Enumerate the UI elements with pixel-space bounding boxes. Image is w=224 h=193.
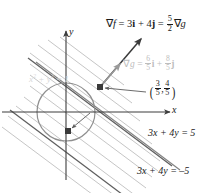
line-lower-label: 3x + 4y = –5 — [137, 166, 189, 176]
grad-g-fraction-2: 85 — [165, 55, 171, 72]
point-y-den: 5 — [164, 89, 170, 97]
grad-g-label: ∇g = 65i + 85j — [123, 55, 174, 72]
point-close-paren: ) — [171, 84, 175, 100]
grad-g-eq: = — [135, 59, 145, 69]
tangency-point-label: (35,45) — [149, 80, 176, 99]
grad-f-g: g — [181, 18, 186, 29]
grad-f-plus: + 4 — [135, 18, 151, 29]
tangency-point-marker — [97, 84, 103, 90]
grad-g-fraction-1: 65 — [145, 55, 151, 72]
grad-g-vector — [100, 64, 120, 87]
grad-f-nabla: ∇ — [106, 18, 113, 29]
grad-f-frac-den: 2 — [167, 25, 173, 34]
grad-g-j: j — [171, 59, 174, 69]
constraint-circle-label: x2 + y2 = 1 — [29, 73, 69, 84]
point-leader-line — [105, 88, 146, 92]
level-line-lower — [10, 110, 155, 193]
grad-g-frac2-den: 5 — [165, 64, 171, 72]
opposite-point-leader — [72, 113, 90, 128]
grad-g-nabla: ∇ — [123, 59, 130, 69]
grad-f-nabla2: ∇ — [174, 18, 181, 29]
x-axis-label: x — [172, 105, 176, 115]
lagrange-multiplier-figure: ∇f = 3i + 4j = 52∇g ∇g = 65i + 85j (35,4… — [0, 0, 224, 193]
grad-f-eq2: = — [155, 18, 166, 29]
grad-f-label: ∇f = 3i + 4j = 52∇g — [106, 15, 186, 34]
circle-plus: + — [36, 74, 47, 84]
point-open-paren: ( — [150, 84, 154, 100]
grad-f-fraction: 52 — [167, 15, 173, 34]
opposite-point-marker — [65, 128, 71, 134]
grad-g-plus: + — [154, 59, 164, 69]
line-upper-label: 3x + 4y = 5 — [148, 128, 195, 138]
point-y-fraction: 45 — [164, 80, 170, 98]
point-x-fraction: 35 — [155, 80, 161, 98]
grad-f-eq1: = 3 — [116, 18, 132, 29]
grad-g-frac1-den: 5 — [145, 64, 151, 72]
point-x-den: 5 — [155, 89, 161, 97]
circle-eq: = 1 — [54, 74, 69, 84]
y-axis-label: y — [69, 27, 73, 37]
